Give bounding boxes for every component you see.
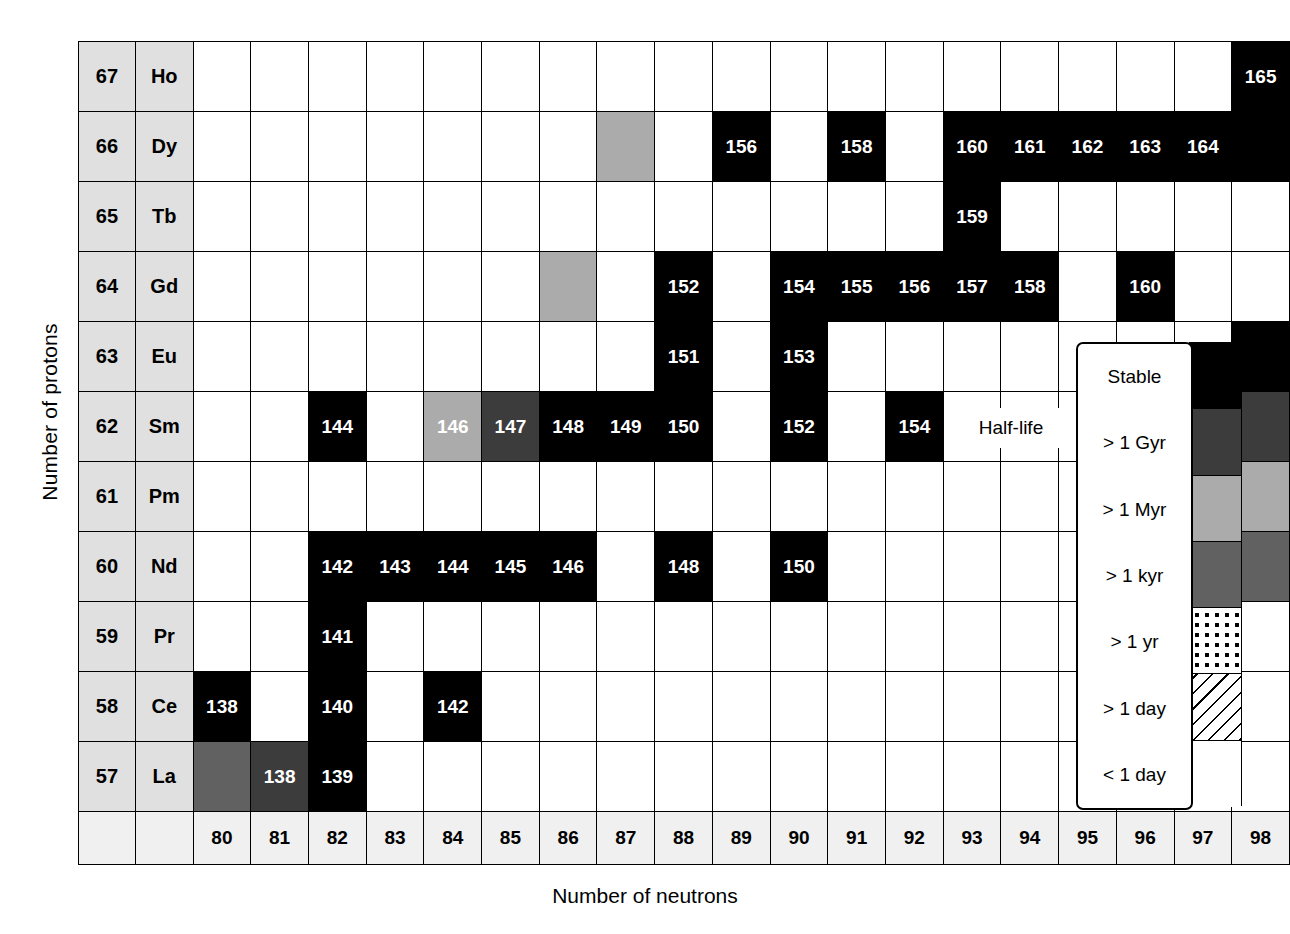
nuclide-cell (308, 42, 366, 112)
nuclide-cell (597, 602, 655, 672)
table-row: 67Ho165 (79, 42, 1290, 112)
nuclide-cell (482, 462, 540, 532)
nuclide-cell (539, 42, 597, 112)
nuclide-cell: 142 (424, 672, 482, 742)
proton-number-cell: 67 (79, 42, 136, 112)
nuclide-mass-label: 148 (552, 416, 584, 437)
nuclide-cell: 156 (886, 252, 944, 322)
element-symbol-cell: Pm (135, 462, 193, 532)
nuclide-cell (1001, 532, 1059, 602)
nuclide-cell (1174, 42, 1232, 112)
nuclide-cell (251, 392, 309, 462)
nuclide-cell (655, 462, 713, 532)
nuclide-cell (828, 322, 886, 392)
nuclide-mass-label: 159 (956, 206, 988, 227)
nuclide-cell (886, 532, 944, 602)
nuclide-cell: 150 (655, 392, 713, 462)
nuclide-mass-label: 157 (956, 276, 988, 297)
nuclide-mass-label: 156 (899, 276, 931, 297)
nuclide-cell (1001, 322, 1059, 392)
nuclide-cell (539, 252, 597, 322)
nuclide-cell (482, 672, 540, 742)
nuclide-mass-label: 146 (552, 556, 584, 577)
legend-swatch-day (1190, 674, 1241, 740)
nuclide-cell (712, 672, 770, 742)
nuclide-mass-label: 154 (899, 416, 931, 437)
nuclide-cell (655, 602, 713, 672)
element-symbol-cell: La (135, 742, 193, 812)
half-life-title: Half-life (948, 408, 1074, 448)
nuclide-cell: 148 (655, 532, 713, 602)
nuclide-cell: 163 (1116, 112, 1174, 182)
nuclide-cell (251, 112, 309, 182)
nuclide-cell (655, 182, 713, 252)
nuclide-cell (366, 182, 424, 252)
nuclide-cell (1001, 462, 1059, 532)
nuclide-cell (886, 462, 944, 532)
nuclide-cell (943, 672, 1001, 742)
nuclide-cell: 144 (424, 532, 482, 602)
nuclide-mass-label: 155 (841, 276, 873, 297)
nuclide-mass-label: 150 (783, 556, 815, 577)
nuclide-cell (655, 112, 713, 182)
proton-number-cell: 61 (79, 462, 136, 532)
nuclide-cell (366, 392, 424, 462)
legend-box: Stable> 1 Gyr> 1 Myr> 1 kyr> 1 yr> 1 day… (1076, 342, 1193, 810)
nuclide-cell (828, 532, 886, 602)
legend-entry-none: < 1 day (1078, 742, 1191, 808)
nuclide-cell (193, 602, 251, 672)
nuclide-cell (828, 672, 886, 742)
nuclide-cell: 152 (770, 392, 828, 462)
nuclide-cell (366, 112, 424, 182)
nuclide-cell: 154 (886, 392, 944, 462)
neutron-number-cell: 93 (943, 812, 1001, 865)
nuclide-cell (539, 742, 597, 812)
nuclide-cell (943, 322, 1001, 392)
nuclide-cell (1174, 252, 1232, 322)
nuclide-cell (308, 462, 366, 532)
nuclide-cell (770, 112, 828, 182)
nuclide-cell (770, 742, 828, 812)
nuclide-cell (251, 672, 309, 742)
neutron-number-cell: 98 (1232, 812, 1290, 865)
nuclide-cell: 160 (943, 112, 1001, 182)
neutron-number-cell: 82 (308, 812, 366, 865)
nuclide-cell (482, 252, 540, 322)
neutron-number-cell: 96 (1116, 812, 1174, 865)
legend-entry-yr: > 1 yr (1078, 609, 1191, 675)
nuclide-cell (193, 252, 251, 322)
nuclide-cell (712, 252, 770, 322)
nuclide-cell (308, 252, 366, 322)
element-symbol-cell: Gd (135, 252, 193, 322)
nuclide-cell (770, 182, 828, 252)
nuclide-cell (1232, 112, 1290, 182)
nuclide-cell (1001, 602, 1059, 672)
nuclide-mass-label: 138 (206, 696, 238, 717)
nuclide-cell (539, 182, 597, 252)
nuclide-cell (943, 42, 1001, 112)
nuclide-cell (482, 602, 540, 672)
nuclide-cell (193, 532, 251, 602)
nuclide-cell: 158 (828, 112, 886, 182)
legend-swatch-myr (1190, 476, 1241, 542)
neutron-number-cell: 84 (424, 812, 482, 865)
nuclide-cell (712, 322, 770, 392)
nuclide-cell (251, 42, 309, 112)
nuclide-cell: 157 (943, 252, 1001, 322)
nuclide-cell (366, 42, 424, 112)
nuclide-cell (828, 392, 886, 462)
nuclide-mass-label: 158 (1014, 276, 1046, 297)
legend-swatch-stable (1190, 343, 1241, 409)
nuclide-cell (366, 462, 424, 532)
nuclide-cell (424, 182, 482, 252)
nuclide-cell (712, 602, 770, 672)
nuclide-cell (597, 532, 655, 602)
nuclide-mass-label: 145 (495, 556, 527, 577)
nuclide-cell: 149 (597, 392, 655, 462)
nuclide-mass-label: 156 (725, 136, 757, 157)
proton-number-cell: 65 (79, 182, 136, 252)
nuclide-cell (1001, 42, 1059, 112)
nuclide-mass-label: 148 (668, 556, 700, 577)
nuclide-cell: 150 (770, 532, 828, 602)
nuclide-cell: 156 (712, 112, 770, 182)
